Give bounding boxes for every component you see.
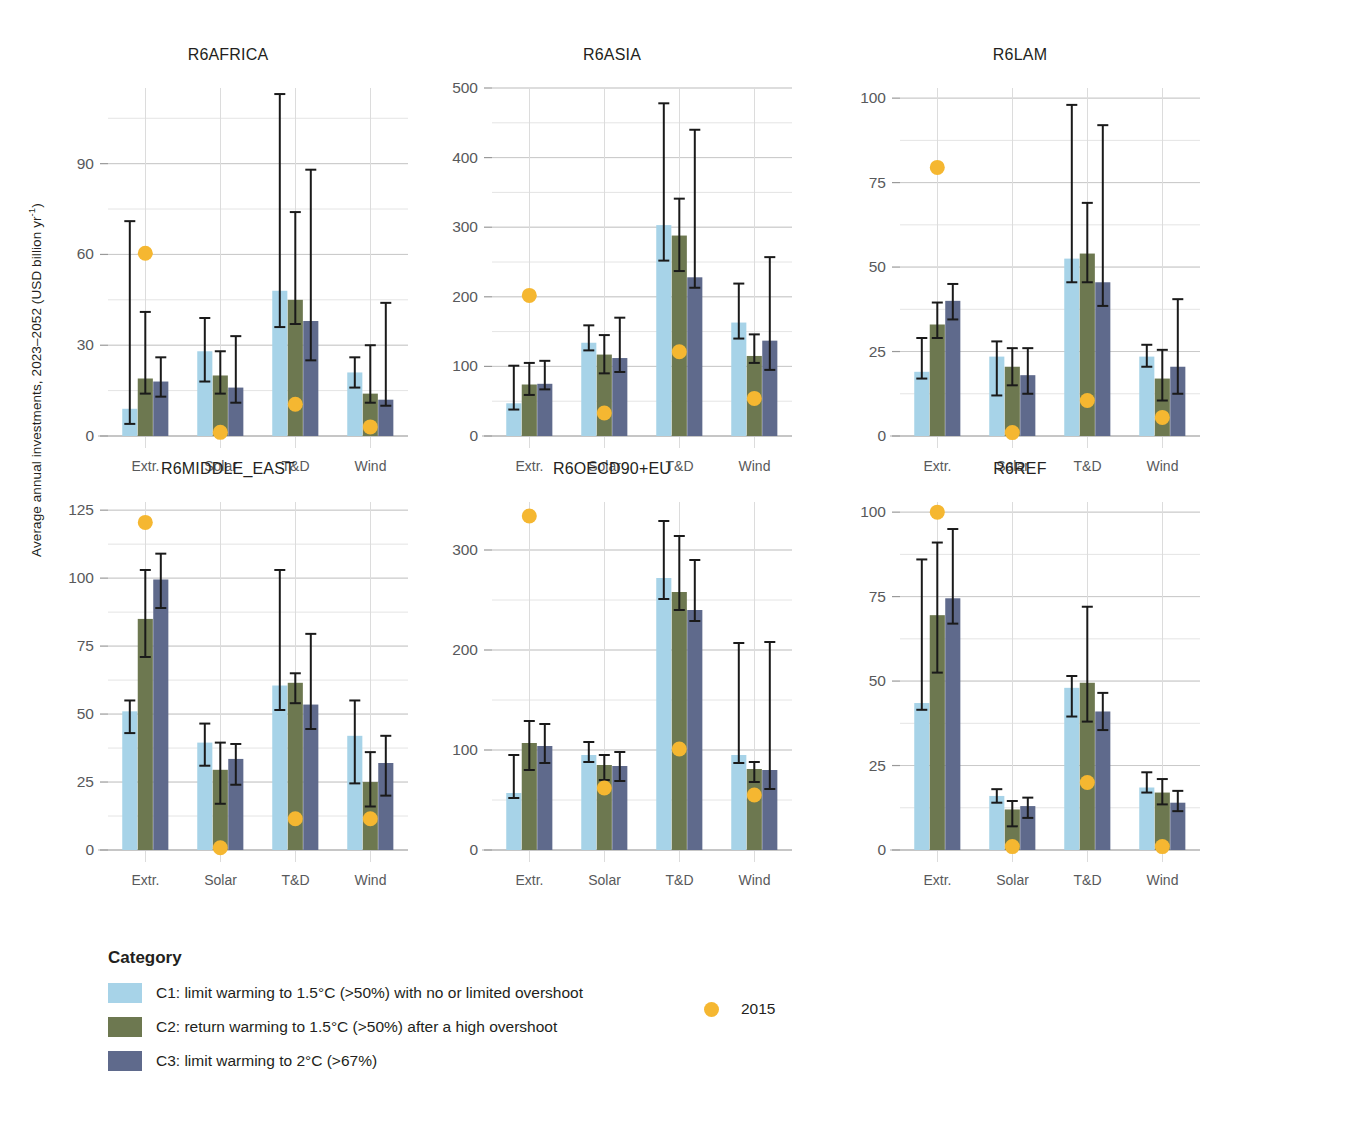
error-bar xyxy=(508,755,519,798)
error-bar xyxy=(1066,105,1077,282)
marker-2015-point[interactable] xyxy=(138,515,153,530)
bar[interactable] xyxy=(153,579,168,850)
y-tick-label: 25 xyxy=(38,773,94,791)
y-tick-label: 50 xyxy=(830,672,886,690)
x-tick-label-wind: Wind xyxy=(1147,872,1179,888)
bar[interactable] xyxy=(1095,711,1110,850)
panel-r6ref: R6REF0255075100Extr.SolarT&DWind xyxy=(830,460,1210,910)
panel-r6oecd90-eu: R6OECD90+EU0100200300Extr.SolarT&DWind xyxy=(422,460,802,910)
marker-2015-point[interactable] xyxy=(363,419,378,434)
marker-2015-point[interactable] xyxy=(672,344,687,359)
y-tick-label: 75 xyxy=(38,637,94,655)
legend-marker-entry: 2015 xyxy=(704,996,775,1022)
y-tick-label: 100 xyxy=(830,89,886,107)
x-tick-label-t-d: T&D xyxy=(1074,872,1102,888)
marker-2015-point[interactable] xyxy=(522,288,537,303)
legend-swatch-c3 xyxy=(108,1051,142,1071)
x-tick-label-solar: Solar xyxy=(204,872,237,888)
bar[interactable] xyxy=(656,578,671,850)
bar[interactable] xyxy=(1139,788,1154,851)
y-tick-label: 400 xyxy=(422,149,478,167)
marker-2015-group xyxy=(138,515,378,855)
bar[interactable] xyxy=(1139,357,1154,436)
bar[interactable] xyxy=(581,755,596,850)
marker-2015-point[interactable] xyxy=(597,406,612,421)
marker-2015-point[interactable] xyxy=(1005,425,1020,440)
error-bar xyxy=(916,559,927,709)
marker-2015-point[interactable] xyxy=(288,811,303,826)
error-bar xyxy=(508,366,519,410)
marker-2015-point[interactable] xyxy=(213,840,228,855)
bar[interactable] xyxy=(914,372,929,436)
bar[interactable] xyxy=(687,277,702,436)
marker-2015-point[interactable] xyxy=(1080,393,1095,408)
legend-item-c2[interactable]: C2: return warming to 1.5°C (>50%) after… xyxy=(108,1014,583,1040)
marker-2015-point[interactable] xyxy=(747,788,762,803)
marker-2015-point[interactable] xyxy=(1080,775,1095,790)
bar[interactable] xyxy=(914,703,929,850)
marker-2015-point[interactable] xyxy=(288,397,303,412)
y-tick-label: 25 xyxy=(830,343,886,361)
y-tick-label: 200 xyxy=(422,641,478,659)
bar[interactable] xyxy=(537,384,552,436)
y-tick-label: 0 xyxy=(422,841,478,859)
legend-swatch-c1 xyxy=(108,983,142,1003)
y-tick-label: 90 xyxy=(38,155,94,173)
marker-2015-point[interactable] xyxy=(213,425,228,440)
bar[interactable] xyxy=(581,343,596,436)
bar[interactable] xyxy=(989,796,1004,850)
bar[interactable] xyxy=(687,610,702,850)
plot-area xyxy=(38,46,418,496)
bars-group xyxy=(122,579,393,850)
bars-group xyxy=(914,598,1185,850)
marker-2015-point[interactable] xyxy=(1155,410,1170,425)
legend-item-c3[interactable]: C3: limit warming to 2°C (>67%) xyxy=(108,1048,583,1074)
bar[interactable] xyxy=(945,598,960,850)
legend-label-c1: C1: limit warming to 1.5°C (>50%) with n… xyxy=(156,984,583,1002)
category-gridlines xyxy=(146,502,371,862)
legend-title: Category xyxy=(108,948,583,968)
marker-2015-point[interactable] xyxy=(363,811,378,826)
error-bar xyxy=(764,642,775,789)
bar[interactable] xyxy=(945,301,960,436)
marker-2015-group xyxy=(522,288,762,421)
panel-r6middle-east: R6MIDDLE_EAST0255075100125Extr.SolarT&DW… xyxy=(38,460,418,910)
x-tick-label-extr-: Extr. xyxy=(131,872,159,888)
bar[interactable] xyxy=(731,323,746,436)
marker-2015-point[interactable] xyxy=(522,509,537,524)
marker-2015-label: 2015 xyxy=(741,1000,775,1018)
y-tick-label: 100 xyxy=(422,741,478,759)
plot-area xyxy=(830,460,1210,910)
bars-group xyxy=(122,291,393,436)
bar[interactable] xyxy=(1064,259,1079,436)
y-tick-label: 50 xyxy=(38,705,94,723)
y-tick-label: 25 xyxy=(830,757,886,775)
marker-2015-point[interactable] xyxy=(597,781,612,796)
y-tick-label: 100 xyxy=(830,503,886,521)
error-bar xyxy=(1097,125,1108,306)
bar[interactable] xyxy=(506,793,521,850)
marker-2015-point[interactable] xyxy=(930,160,945,175)
bar[interactable] xyxy=(731,755,746,850)
y-tick-label: 60 xyxy=(38,245,94,263)
bar[interactable] xyxy=(672,592,687,850)
marker-2015-point[interactable] xyxy=(672,742,687,757)
panel-r6asia: R6ASIA0100200300400500Extr.SolarT&DWind xyxy=(422,46,802,496)
y-tick-label: 500 xyxy=(422,79,478,97)
x-tick-label-wind: Wind xyxy=(355,872,387,888)
marker-2015-dot xyxy=(704,1002,719,1017)
marker-2015-group xyxy=(930,505,1170,854)
marker-2015-point[interactable] xyxy=(138,246,153,261)
marker-2015-point[interactable] xyxy=(1005,839,1020,854)
y-tick-label: 75 xyxy=(830,588,886,606)
marker-2015-point[interactable] xyxy=(747,391,762,406)
marker-2015-point[interactable] xyxy=(930,505,945,520)
category-gridlines xyxy=(530,88,755,448)
y-tick-label: 100 xyxy=(38,569,94,587)
plot-area xyxy=(422,460,802,910)
marker-2015-point[interactable] xyxy=(1155,839,1170,854)
bar[interactable] xyxy=(930,325,945,437)
y-tick-label: 75 xyxy=(830,174,886,192)
plot-area xyxy=(422,46,802,496)
legend-item-c1[interactable]: C1: limit warming to 1.5°C (>50%) with n… xyxy=(108,980,583,1006)
